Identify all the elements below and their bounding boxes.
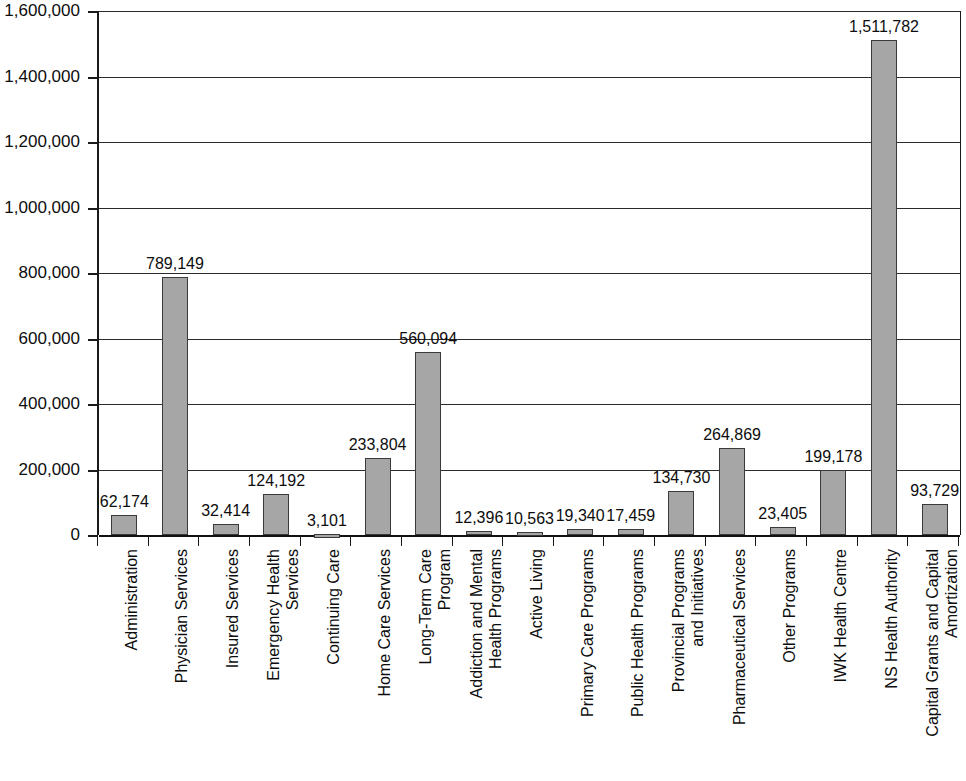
- y-axis-tick-label: 1,400,000: [4, 68, 80, 85]
- category-label-line: Primary Care Programs: [578, 549, 597, 717]
- category-label-line: Amortization: [942, 549, 961, 737]
- x-axis-tick-mark: [958, 535, 959, 546]
- y-axis-tick-label: 1,200,000: [4, 133, 80, 150]
- bar: [871, 40, 897, 535]
- x-axis-tick-mark: [300, 535, 301, 546]
- category-label-line: Other Programs: [780, 549, 799, 663]
- bar: [567, 529, 593, 535]
- gridline: [99, 404, 960, 405]
- x-axis-tick-mark: [502, 535, 503, 546]
- y-axis-tick-label: 200,000: [19, 461, 80, 478]
- x-axis-tick-mark: [401, 535, 402, 546]
- category-label-line: Continuing Care: [324, 549, 343, 665]
- x-axis-tick-mark: [806, 535, 807, 546]
- bar: [820, 470, 846, 535]
- bar: [365, 458, 391, 535]
- bar-value-label: 1,511,782: [824, 19, 944, 35]
- bar-value-label: 789,149: [115, 256, 235, 272]
- category-label-line: IWK Health Centre: [831, 549, 850, 682]
- category-label-line: Addiction and Mental: [467, 549, 486, 698]
- bar: [517, 532, 543, 536]
- y-axis-tick-label: 0: [71, 526, 80, 543]
- x-axis-tick-mark: [907, 535, 908, 546]
- bar: [162, 277, 188, 535]
- category-label-line: Program: [435, 549, 454, 665]
- gridline: [99, 208, 960, 209]
- bar-value-label: 93,729: [875, 483, 966, 499]
- gridline: [99, 142, 960, 143]
- y-axis-tick-label: 1,000,000: [4, 199, 80, 216]
- category-label-line: Physician Services: [172, 549, 191, 683]
- x-axis-tick-mark: [654, 535, 655, 546]
- bar: [314, 534, 340, 538]
- x-axis-tick-mark: [198, 535, 199, 546]
- category-label-line: Active Living: [527, 549, 546, 639]
- y-axis-tick-label: 400,000: [19, 395, 80, 412]
- gridline: [99, 77, 960, 78]
- category-label-line: Administration: [122, 549, 141, 650]
- y-axis-tick-mark: [88, 77, 97, 79]
- gridline: [99, 339, 960, 340]
- gridline: [99, 273, 960, 274]
- y-axis-tick-mark: [88, 273, 97, 275]
- x-axis-tick-mark: [452, 535, 453, 546]
- x-axis-tick-mark: [603, 535, 604, 546]
- x-axis-tick-mark: [350, 535, 351, 546]
- y-axis-tick-mark: [88, 470, 97, 472]
- category-label-line: NS Health Authority: [882, 549, 901, 689]
- x-axis-tick-mark: [755, 535, 756, 546]
- category-label-line: Capital Grants and Capital: [923, 549, 942, 737]
- y-axis-tick-mark: [88, 142, 97, 144]
- category-label-line: Long-Term Care: [416, 549, 435, 665]
- x-axis-tick-mark: [148, 535, 149, 546]
- bar: [415, 352, 441, 535]
- y-axis-tick-label: 1,600,000: [4, 2, 80, 19]
- bar: [922, 504, 948, 535]
- bar-value-label: 560,094: [368, 331, 488, 347]
- x-axis-tick-mark: [553, 535, 554, 546]
- x-axis-tick-mark: [97, 535, 98, 546]
- category-label-line: Home Care Services: [375, 549, 394, 697]
- y-axis-tick-mark: [88, 535, 97, 537]
- category-label-line: Pharmaceutical Services: [730, 549, 749, 725]
- bar-value-label: 124,192: [216, 473, 336, 489]
- bar: [111, 515, 137, 535]
- category-label-line: Health Programs: [486, 549, 505, 698]
- y-axis-tick-mark: [88, 11, 97, 13]
- y-axis-tick-mark: [88, 339, 97, 341]
- y-axis-tick-mark: [88, 208, 97, 210]
- bar: [466, 531, 492, 535]
- bar-chart: 1,600,0001,400,0001,200,0001,000,000800,…: [0, 0, 966, 781]
- y-axis: 1,600,0001,400,0001,200,0001,000,000800,…: [0, 0, 80, 781]
- bar: [770, 527, 796, 535]
- y-axis-tick-mark: [88, 404, 97, 406]
- x-axis-tick-mark: [249, 535, 250, 546]
- plot-area: 62,174789,14932,414124,1923,101233,80456…: [97, 11, 961, 535]
- category-label-line: Public Health Programs: [628, 549, 647, 717]
- gridline: [99, 11, 960, 12]
- category-label-line: and Initiatives: [688, 549, 707, 692]
- bar-value-label: 264,869: [672, 427, 792, 443]
- bar: [668, 491, 694, 535]
- category-label-line: Insured Services: [223, 549, 242, 668]
- bar: [213, 524, 239, 535]
- category-label-line: Services: [283, 549, 302, 681]
- x-axis-tick-mark: [857, 535, 858, 546]
- x-axis-tick-mark: [705, 535, 706, 546]
- y-axis-tick-label: 800,000: [19, 264, 80, 281]
- category-label-line: Emergency Health: [264, 549, 283, 681]
- bar: [618, 529, 644, 535]
- category-label-line: Provincial Programs: [669, 549, 688, 692]
- y-axis-tick-label: 600,000: [19, 330, 80, 347]
